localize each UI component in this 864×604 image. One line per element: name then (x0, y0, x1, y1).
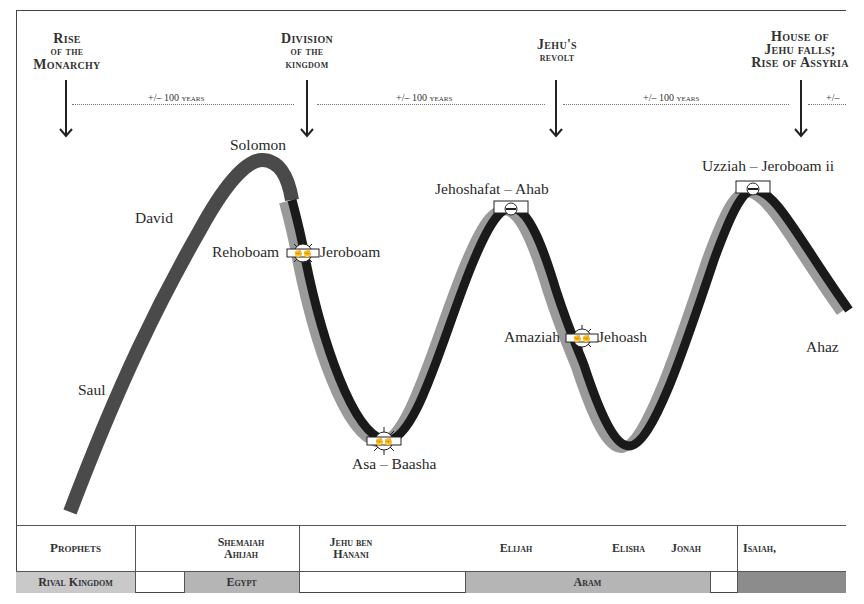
king-label-uzziah-jeroboam2: Uzziah – Jeroboam ii (702, 157, 834, 175)
svg-text:✊✊: ✊✊ (294, 249, 312, 258)
prophet-elisha-cell: Elisha (601, 525, 656, 571)
arrow-down-icon (795, 80, 807, 136)
table-col-divider (299, 525, 300, 593)
arrow-down-icon (550, 80, 562, 136)
table-col-divider (135, 525, 136, 593)
rival-aram-cell: Aram (465, 571, 710, 593)
arrow-down-icon (60, 80, 72, 136)
rival-kingdom-header-cell: Rival Kingdom (16, 571, 135, 593)
table-col-divider (737, 525, 738, 593)
table-top-border (16, 525, 846, 526)
prophet-shemaiah-ahijah-cell: Shemaiah Ahijah (186, 525, 296, 571)
king-label-david: David (135, 209, 173, 227)
prophet-jonah-cell: Jonah (656, 525, 716, 571)
prophets-header-cell: Prophets (16, 525, 135, 571)
prophet-jehu-ben-hanani-cell: Jehu ben Hanani (311, 525, 391, 571)
king-label-asa-baasha: Asa – Baasha (352, 455, 436, 473)
king-label-jehoshafat-ahab: Jehoshafat – Ahab (435, 180, 549, 198)
table-col-divider (465, 571, 466, 593)
prophet-elisha: Elisha (612, 542, 645, 554)
king-label-ahaz: Ahaz (806, 338, 839, 356)
rival-aram-label: Aram (574, 576, 602, 588)
king-label-solomon: Solomon (230, 136, 286, 154)
timeline-curve-graphic: ✊✊ ✊✊ ✊✊ (0, 0, 864, 604)
svg-text:✊✊: ✊✊ (573, 334, 591, 343)
prophet-isaiah: Isaiah, (743, 542, 776, 554)
table-row-divider (16, 571, 846, 572)
king-label-jehoash: Jehoash (598, 328, 647, 346)
rival-egypt-cell: Egypt (184, 571, 299, 593)
alliance-handshake-icon (494, 201, 528, 215)
prophet-elijah: Elijah (500, 542, 532, 554)
king-label-saul: Saul (78, 381, 106, 399)
prophet-jonah: Jonah (671, 542, 701, 554)
rival-assyria-cell (737, 571, 846, 593)
rival-kingdom-header: Rival Kingdom (38, 576, 113, 588)
arrow-down-icon (301, 80, 313, 136)
prophet-ahijah: Ahijah (224, 548, 258, 560)
prophet-isaiah-cell: Isaiah, (743, 525, 803, 571)
prophet-elijah-cell: Elijah (486, 525, 546, 571)
rival-egypt-label: Egypt (226, 576, 256, 588)
svg-text:✊✊: ✊✊ (375, 437, 393, 446)
prophets-rivals-table: Rival Kingdom Egypt Aram Prophets Shemai… (16, 525, 846, 593)
alliance-handshake-icon (736, 181, 770, 195)
king-label-jeroboam: Jeroboam (320, 243, 380, 261)
table-col-divider (710, 571, 711, 593)
king-label-rehoboam: Rehoboam (212, 243, 279, 261)
prophet-hanani: Hanani (333, 548, 369, 560)
table-col-divider (184, 571, 185, 593)
prophets-header: Prophets (50, 542, 101, 554)
king-label-amaziah: Amaziah (504, 328, 560, 346)
